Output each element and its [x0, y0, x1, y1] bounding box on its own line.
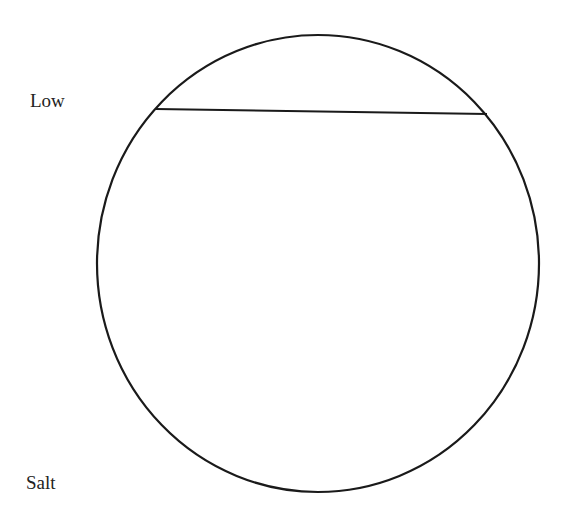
diagram-canvas — [0, 0, 571, 525]
label-low: Low — [30, 90, 65, 112]
chord-line — [156, 109, 487, 114]
label-salt: Salt — [26, 472, 56, 494]
circle-outline — [97, 35, 539, 492]
